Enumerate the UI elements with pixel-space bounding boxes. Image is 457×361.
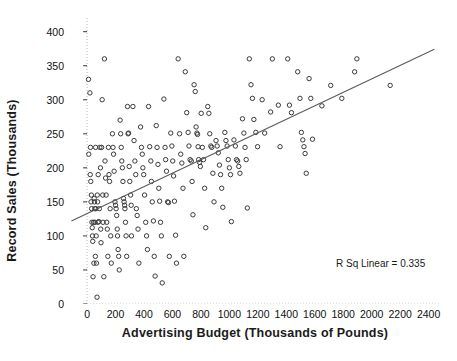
data-point: [106, 145, 110, 149]
data-point: [152, 254, 156, 258]
data-point: [194, 125, 198, 129]
data-point: [119, 145, 123, 149]
data-point: [115, 227, 119, 231]
data-point: [204, 226, 208, 230]
y-tick-label: 100: [24, 231, 64, 241]
data-point: [193, 89, 197, 93]
y-tick-label: 350: [24, 61, 64, 71]
data-point: [140, 152, 144, 156]
data-point: [186, 130, 190, 134]
data-point: [174, 261, 178, 265]
y-tick-label: 50: [24, 265, 64, 275]
data-point: [287, 103, 291, 107]
data-point: [146, 104, 150, 108]
data-point: [179, 152, 183, 156]
data-point: [170, 144, 174, 148]
scatter-chart: Record Sales (Thousands) 050100150200250…: [0, 0, 457, 361]
x-axis-tick-labels: 0200400600800100012001400160018002000220…: [70, 308, 450, 322]
data-point: [249, 83, 253, 87]
data-point: [121, 179, 125, 183]
data-point: [158, 220, 162, 224]
data-point: [156, 162, 160, 166]
data-point: [286, 57, 290, 61]
data-point: [217, 163, 221, 167]
data-point: [167, 254, 171, 258]
data-point: [149, 159, 153, 163]
data-point: [227, 166, 231, 170]
data-point: [355, 57, 359, 61]
data-point: [117, 268, 121, 272]
data-point: [111, 145, 115, 149]
data-point: [151, 219, 155, 223]
data-point: [268, 110, 272, 114]
data-point: [162, 97, 166, 101]
data-point: [180, 161, 184, 165]
data-point: [87, 152, 91, 156]
data-point: [320, 104, 324, 108]
data-point: [144, 220, 148, 224]
data-point: [247, 57, 251, 61]
data-point: [120, 159, 124, 163]
data-point: [183, 70, 187, 74]
data-point: [134, 172, 138, 176]
data-point: [91, 275, 95, 279]
data-point: [128, 179, 132, 183]
data-point: [160, 281, 164, 285]
data-point: [190, 179, 194, 183]
data-point: [299, 130, 303, 134]
data-point: [157, 186, 161, 190]
data-point: [99, 227, 103, 231]
data-point: [112, 169, 116, 173]
data-point: [132, 138, 136, 142]
data-point: [139, 145, 143, 149]
data-point: [98, 166, 102, 170]
data-point: [223, 130, 227, 134]
data-point: [108, 206, 112, 210]
data-point: [114, 213, 118, 217]
data-point: [244, 157, 248, 161]
data-point: [220, 186, 224, 190]
data-point: [211, 171, 215, 175]
data-point: [88, 145, 92, 149]
data-point: [91, 239, 95, 243]
data-point: [118, 118, 122, 122]
data-point: [172, 199, 176, 203]
data-point: [133, 159, 137, 163]
data-point: [147, 145, 151, 149]
data-point: [276, 103, 280, 107]
data-point: [206, 104, 210, 108]
data-point: [245, 206, 249, 210]
data-point: [123, 220, 127, 224]
data-point: [304, 171, 308, 175]
data-point: [240, 117, 244, 121]
data-point: [134, 206, 138, 210]
y-tick-label: 150: [24, 197, 64, 207]
data-point: [120, 166, 124, 170]
y-tick-label: 300: [24, 95, 64, 105]
data-point: [138, 125, 142, 129]
data-point: [159, 234, 163, 238]
data-point: [270, 57, 274, 61]
y-tick-label: 250: [24, 129, 64, 139]
data-point: [171, 174, 175, 178]
data-point: [124, 234, 128, 238]
data-point: [164, 169, 168, 173]
data-point: [218, 172, 222, 176]
data-point: [153, 274, 157, 278]
data-point: [157, 199, 161, 203]
data-point: [150, 200, 154, 204]
data-point: [224, 138, 228, 142]
data-point: [329, 83, 333, 87]
data-point: [88, 172, 92, 176]
data-point: [207, 111, 211, 115]
data-point: [199, 111, 203, 115]
data-point: [210, 145, 214, 149]
data-point: [298, 96, 302, 100]
data-point: [307, 76, 311, 80]
data-point: [309, 96, 313, 100]
data-point: [169, 131, 173, 135]
data-point: [129, 203, 133, 207]
data-point: [243, 145, 247, 149]
data-point: [237, 164, 241, 168]
data-point: [116, 247, 120, 251]
